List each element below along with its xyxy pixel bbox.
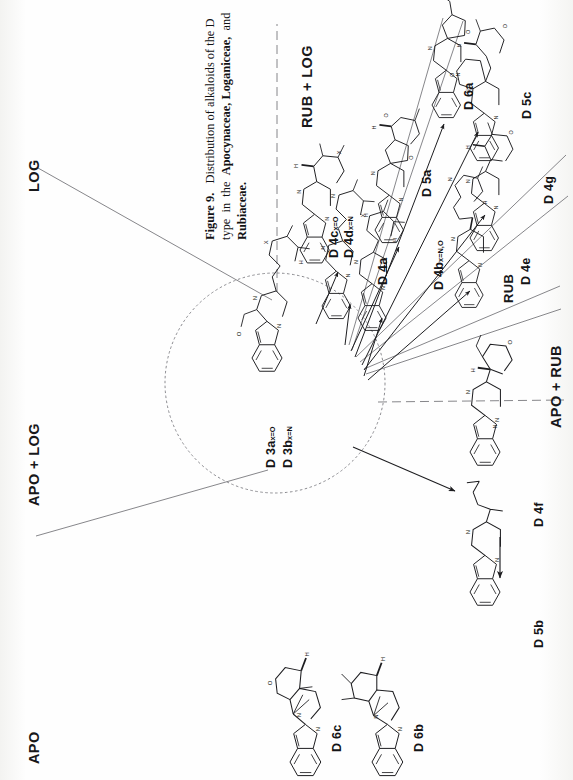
- compound-label-d4b-text: D 4b: [432, 262, 446, 290]
- svg-text:N: N: [320, 246, 326, 250]
- svg-text:N: N: [296, 190, 302, 194]
- compound-label-d6c: D 6c: [330, 725, 344, 752]
- svg-text:N: N: [252, 296, 258, 300]
- sector-label-rub: RUB: [501, 274, 516, 303]
- svg-text:H: H: [482, 200, 488, 204]
- svg-text:H: H: [470, 368, 476, 372]
- divider-apo-rub: [378, 400, 564, 402]
- svg-text:H: H: [465, 145, 471, 149]
- compound-label-d4d-text: D 4d: [342, 230, 356, 258]
- svg-text:O: O: [408, 155, 414, 159]
- compound-label-d5c: D 5c: [520, 92, 534, 119]
- compound-label-d4f: D 4f: [532, 502, 546, 527]
- figure-caption-line-3: Rubiaceae.: [235, 182, 250, 240]
- svg-text:N: N: [427, 46, 433, 50]
- sector-wedge-lines: [349, 18, 568, 374]
- compound-label-d6b: D 6b: [412, 724, 426, 752]
- divider-apo-log: [36, 470, 268, 536]
- compound-label-d4b: D 4bx=N,O: [432, 240, 446, 290]
- arrow-to-d6a: [355, 124, 444, 357]
- sector-label-apo-rub: APO + RUB: [548, 345, 564, 428]
- sector-label-apo-log: APO + LOG: [26, 423, 42, 506]
- svg-text:N: N: [450, 237, 456, 241]
- svg-text:N: N: [370, 171, 376, 175]
- figure-vector-layer: N: [0, 0, 573, 780]
- svg-text:H: H: [392, 238, 398, 242]
- compound-label-d3b-text: D 3b: [281, 440, 295, 468]
- compound-label-d5a-text: D 5a: [420, 170, 434, 197]
- compound-label-d6c-text: D 6c: [330, 725, 344, 752]
- compound-label-d4a-text: D 4a: [376, 258, 390, 285]
- compound-label-d4c-variant: x=O: [331, 216, 340, 230]
- compound-label-d4a: D 4a: [376, 258, 390, 285]
- svg-text:N: N: [492, 425, 498, 429]
- svg-text:O: O: [508, 130, 514, 134]
- compound-label-d4g: D 4g: [542, 176, 556, 204]
- compound-label-d4c-text: D 4c: [327, 231, 341, 258]
- compound-label-d5b: D 5b: [532, 620, 546, 648]
- arrow-to-d4g: [364, 215, 485, 370]
- structure-d3a-d3b: N X H O: [236, 225, 310, 371]
- compound-label-d4e: D 4e: [519, 258, 533, 285]
- svg-text:H: H: [456, 43, 462, 47]
- svg-text:H: H: [371, 125, 377, 129]
- svg-text:N: N: [465, 390, 471, 394]
- compound-label-d4g-text: D 4g: [542, 176, 556, 204]
- compound-label-d4e-text: D 4e: [519, 258, 533, 285]
- compound-label-d4b-variant: x=N,O: [436, 240, 445, 262]
- figure-caption-line-1: Figure 9. Distribution of alkaloids of t…: [203, 19, 218, 240]
- svg-text:O: O: [383, 113, 389, 117]
- svg-text:O: O: [465, 30, 471, 34]
- compound-label-d5c-text: D 5c: [520, 92, 534, 119]
- svg-text:N: N: [447, 177, 453, 181]
- compound-label-d3b-variant: x=N: [285, 426, 294, 440]
- svg-text:N: N: [465, 530, 471, 534]
- structure-d6b: N H: [342, 657, 403, 776]
- sector-label-log: LOG: [26, 159, 42, 192]
- compound-label-d6b-text: D 6b: [412, 724, 426, 752]
- compound-label-d4d: D 4dx=N: [342, 216, 356, 258]
- compound-label-d3b: D 3bx=N: [281, 426, 295, 468]
- wedge-line-4: [360, 196, 568, 362]
- svg-text:N: N: [330, 194, 336, 198]
- arrow-to-d4f: [353, 447, 455, 491]
- svg-text:X: X: [263, 240, 269, 244]
- svg-text:O: O: [507, 339, 513, 344]
- compound-label-d3a-variant: x=O: [268, 426, 277, 440]
- sector-label-apo: APO: [26, 731, 42, 764]
- compound-label-d6a: D 6a: [462, 83, 476, 110]
- compound-label-d6a-text: D 6a: [462, 83, 476, 110]
- svg-text:O: O: [449, 73, 455, 77]
- svg-text:O: O: [502, 24, 508, 28]
- svg-text:N: N: [353, 260, 359, 264]
- arrow-to-d4e: [368, 291, 470, 380]
- compound-label-d3a: D 3ax=O: [264, 426, 278, 468]
- compound-label-d5a: D 5a: [420, 170, 434, 197]
- svg-text:H: H: [380, 657, 386, 661]
- compound-label-d3a-text: D 3a: [264, 441, 278, 468]
- sector-label-rub-log: RUB + LOG: [299, 45, 315, 128]
- structure-d4f: N O H N: [465, 335, 513, 465]
- svg-text:H: H: [293, 164, 299, 168]
- compound-label-d4d-variant: x=N: [346, 216, 355, 230]
- figure-page: N: [0, 0, 573, 780]
- compound-label-d4f-text: D 4f: [532, 502, 546, 527]
- arrow-to-d4a: [345, 304, 350, 345]
- svg-text:N: N: [296, 713, 302, 717]
- structure-d5b: N: [465, 481, 503, 605]
- structure-d6c: N O H: [267, 652, 321, 775]
- compound-label-d5b-text: D 5b: [532, 620, 546, 648]
- svg-text:H: H: [298, 260, 304, 264]
- figure-caption-line-2: type in the Apocynaceae, Loganiceae, and: [219, 13, 234, 240]
- wedge-line-3: [356, 155, 566, 357]
- structure-d5c: N O O H: [449, 19, 508, 160]
- svg-text:H: H: [304, 652, 310, 656]
- svg-text:X: X: [360, 213, 366, 217]
- svg-text:N: N: [465, 179, 471, 183]
- svg-text:O: O: [236, 331, 242, 336]
- svg-text:O: O: [267, 680, 273, 685]
- compound-label-d4c: D 4cx=O: [327, 216, 341, 258]
